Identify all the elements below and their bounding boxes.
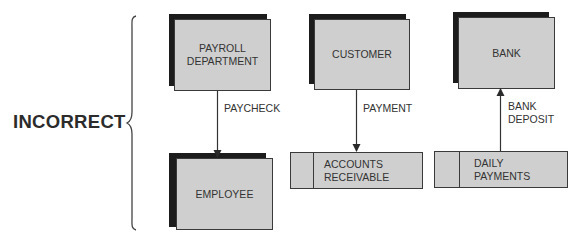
bank-deposit-flow-label: BANK DEPOSIT <box>508 100 554 126</box>
paycheck-flow-label: PAYCHECK <box>224 102 280 115</box>
flow-arrows <box>0 0 578 242</box>
payment-flow-label: PAYMENT <box>363 102 412 115</box>
